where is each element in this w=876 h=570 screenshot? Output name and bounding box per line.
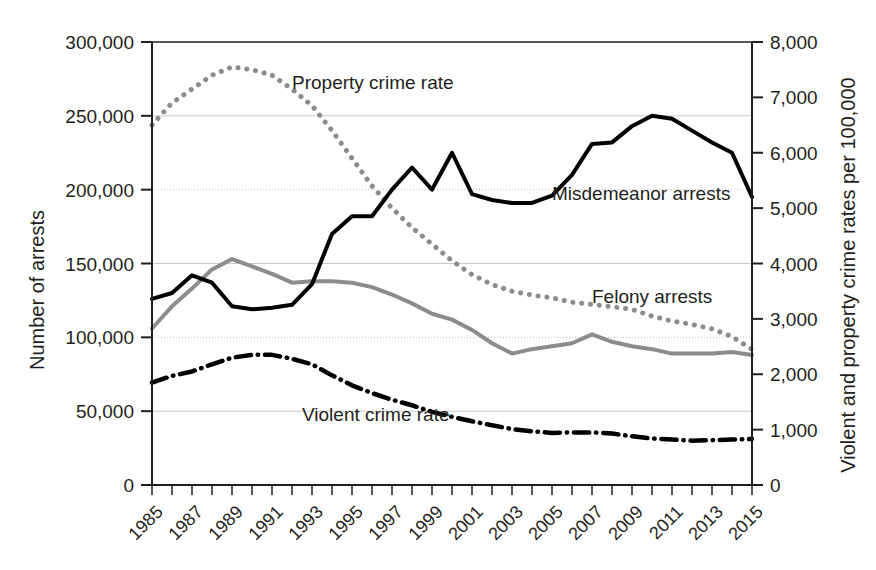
series-label-violent-crime-rate: Violent crime rate: [302, 404, 450, 425]
x-tick-label: 2007: [564, 502, 606, 544]
x-tick-label: 1991: [244, 502, 286, 544]
right-axis-title: Violent and property crime rates per 100…: [837, 77, 859, 472]
x-tick-label: 1995: [324, 502, 366, 544]
x-tick-label: 2013: [684, 502, 726, 544]
right-tick-label: 3,000: [770, 309, 818, 330]
series-line-violent-crime-rate: [152, 355, 752, 441]
right-axis-ticks: 01,0002,0003,0004,0005,0006,0007,0008,00…: [752, 32, 818, 496]
x-tick-label: 1997: [364, 502, 406, 544]
right-tick-label: 1,000: [770, 420, 818, 441]
right-tick-label: 8,000: [770, 32, 818, 53]
x-tick-label: 2003: [484, 502, 526, 544]
left-tick-label: 50,000: [76, 401, 134, 422]
right-tick-label: 4,000: [770, 254, 818, 275]
left-tick-label: 150,000: [65, 254, 134, 275]
x-tick-label: 1993: [284, 502, 326, 544]
x-axis-ticks: 1985198719891991199319951997199920012003…: [124, 485, 766, 544]
series-label-misdemeanor-arrests: Misdemeanor arrests: [552, 183, 730, 204]
chart-canvas: 050,000100,000150,000200,000250,000300,0…: [0, 0, 876, 570]
left-axis-title: Number of arrests: [26, 210, 48, 370]
left-tick-label: 250,000: [65, 106, 134, 127]
left-tick-label: 0: [123, 475, 134, 496]
left-tick-label: 300,000: [65, 32, 134, 53]
x-tick-label: 2005: [524, 502, 566, 544]
x-tick-label: 2015: [724, 502, 766, 544]
series-label-felony-arrests: Felony arrests: [592, 286, 712, 307]
right-tick-label: 0: [770, 475, 781, 496]
x-tick-label: 2009: [604, 502, 646, 544]
x-tick-label: 2011: [645, 502, 687, 544]
right-tick-label: 2,000: [770, 364, 818, 385]
x-tick-label: 1999: [404, 502, 446, 544]
series-label-property-crime-rate: Property crime rate: [292, 72, 454, 93]
series-group: [152, 67, 752, 441]
right-tick-label: 6,000: [770, 143, 818, 164]
x-tick-label: 1987: [164, 502, 206, 544]
crime-arrests-line-chart: 050,000100,000150,000200,000250,000300,0…: [0, 0, 876, 570]
series-annotations: Misdemeanor arrestsFelony arrestsPropert…: [292, 72, 730, 425]
x-tick-label: 1989: [204, 502, 246, 544]
left-tick-label: 200,000: [65, 180, 134, 201]
right-tick-label: 7,000: [770, 87, 818, 108]
left-tick-label: 100,000: [65, 327, 134, 348]
left-axis-ticks: 050,000100,000150,000200,000250,000300,0…: [65, 32, 152, 496]
series-line-misdemeanor-arrests: [152, 116, 752, 309]
x-tick-label: 1985: [124, 502, 166, 544]
x-tick-label: 2001: [444, 502, 486, 544]
right-tick-label: 5,000: [770, 198, 818, 219]
